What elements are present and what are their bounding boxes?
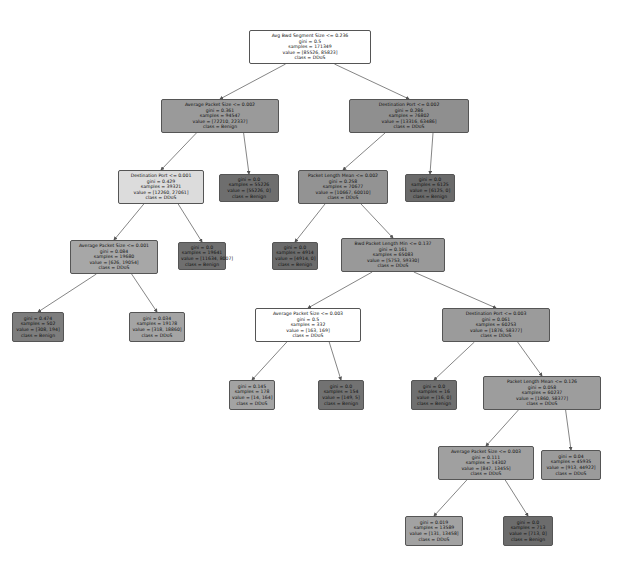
- tree-node: Destination Port <= 0.001gini = 0.429sam…: [118, 170, 204, 204]
- tree-node: gini = 0.0samples = 4914value = [4914, 0…: [272, 242, 318, 270]
- tree-edge: [295, 204, 325, 242]
- node-line: class = Benign: [414, 401, 454, 407]
- tree-edge: [161, 133, 196, 170]
- tree-edge: [486, 410, 518, 446]
- node-line: class = DDoS: [408, 537, 460, 543]
- tree-node: Packet Length Mean <= 0.002gini = 0.258s…: [298, 170, 388, 204]
- tree-edge: [38, 274, 96, 312]
- tree-edge: [244, 133, 249, 174]
- tree-edge: [434, 342, 474, 380]
- node-line: class = DDoS: [301, 195, 385, 201]
- tree-node: Average Packet Size <= 0.003gini = 0.5sa…: [255, 308, 361, 342]
- tree-node: gini = 0.019samples = 13589value = [131,…: [405, 516, 463, 546]
- tree-node: Avg Bwd Segment Size <= 0.236gini = 0.5s…: [249, 30, 371, 64]
- node-line: class = Benign: [181, 262, 223, 268]
- tree-edge: [329, 342, 341, 380]
- tree-node: Destination Port <= 0.003gini = 0.061sam…: [442, 308, 550, 342]
- tree-edge: [343, 133, 385, 170]
- tree-node: gini = 0.04samples = 45935value = [913, …: [541, 450, 601, 480]
- tree-node: Destination Port <= 0.002gini = 0.286sam…: [349, 99, 469, 133]
- tree-edge: [361, 204, 393, 238]
- tree-node: gini = 0.0samples = 154value = [149, 5]c…: [318, 380, 364, 410]
- tree-edge: [430, 133, 433, 174]
- tree-edge: [434, 480, 467, 516]
- tree-edge: [178, 204, 202, 242]
- node-line: class = DDoS: [441, 471, 531, 477]
- tree-node: gini = 0.145samples = 178value = [14, 16…: [229, 380, 275, 410]
- node-line: class = DDoS: [352, 124, 466, 130]
- tree-node: gini = 0.474samples = 502value = [308, 1…: [12, 312, 64, 342]
- node-line: class = DDoS: [232, 401, 272, 407]
- tree-node: Average Packet Size <= 0.002gini = 0.361…: [161, 99, 279, 133]
- node-line: class = DDoS: [121, 195, 201, 201]
- tree-edge: [518, 342, 542, 376]
- node-line: class = Benign: [275, 262, 315, 268]
- node-line: class = DDoS: [73, 265, 155, 271]
- node-line: class = Benign: [408, 194, 452, 200]
- node-line: class = DDoS: [544, 471, 598, 477]
- node-line: class = DDoS: [486, 401, 598, 407]
- tree-edge: [334, 64, 409, 99]
- tree-node: Average Packet Size <= 0.003gini = 0.111…: [438, 446, 534, 480]
- tree-edge: [132, 274, 157, 312]
- tree-edge: [414, 272, 496, 308]
- tree-edge: [505, 480, 528, 516]
- tree-node: gini = 0.0samples = 16value = [16, 0]cla…: [411, 380, 457, 410]
- tree-edges: [0, 0, 633, 583]
- tree-edge: [308, 272, 372, 308]
- node-line: class = DDoS: [344, 263, 442, 269]
- tree-node: gini = 0.034samples = 19178value = [318,…: [129, 312, 185, 342]
- node-line: class = DDoS: [258, 333, 358, 339]
- tree-node: gini = 0.0samples = 19641value = [11634,…: [178, 242, 226, 270]
- tree-node: gini = 0.0samples = 6125value = [6125, 0…: [405, 174, 455, 202]
- tree-node: gini = 0.0samples = 55226value = [55226,…: [219, 174, 279, 202]
- node-line: class = Benign: [222, 194, 276, 200]
- tree-node: gini = 0.0samples = 713value = [713, 0]c…: [503, 516, 553, 546]
- tree-edge: [220, 64, 286, 99]
- node-line: class = Benign: [164, 124, 276, 130]
- tree-node: Bwd Packet Length Min <= 0.137gini = 0.1…: [341, 238, 445, 272]
- node-line: class = DDoS: [252, 55, 368, 61]
- tree-node: Packet Length Mean <= 0.126gini = 0.058s…: [483, 376, 601, 410]
- node-line: class = Benign: [15, 333, 61, 339]
- node-line: class = Benign: [321, 401, 361, 407]
- tree-edge: [252, 342, 287, 380]
- node-line: class = Benign: [506, 537, 550, 543]
- tree-edge: [114, 204, 144, 240]
- tree-edge: [566, 410, 571, 450]
- node-line: class = DDoS: [132, 333, 182, 339]
- node-line: class = DDoS: [445, 333, 547, 339]
- tree-node: Average Packet Size <= 0.001gini = 0.084…: [70, 240, 158, 274]
